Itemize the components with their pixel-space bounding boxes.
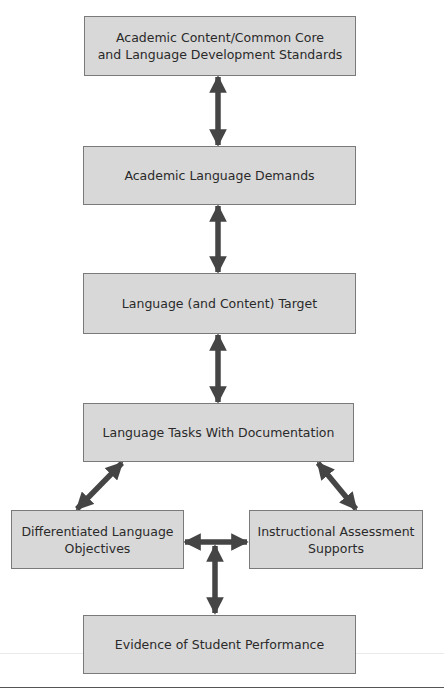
arrow-tasks-supports bbox=[318, 463, 356, 509]
node-objectives: Differentiated Language Objectives bbox=[11, 510, 184, 569]
node-demands-label: Academic Language Demands bbox=[124, 167, 314, 184]
node-evidence: Evidence of Student Performance bbox=[83, 615, 356, 674]
arrow-tasks-objectives bbox=[77, 463, 122, 509]
node-objectives-label: Differentiated Language Objectives bbox=[21, 523, 173, 557]
node-tasks: Language Tasks With Documentation bbox=[83, 403, 354, 462]
node-standards-label: Academic Content/Common Core and Languag… bbox=[98, 29, 343, 63]
node-target: Language (and Content) Target bbox=[83, 273, 356, 334]
node-tasks-label: Language Tasks With Documentation bbox=[103, 424, 335, 441]
node-evidence-label: Evidence of Student Performance bbox=[115, 636, 324, 653]
bottom-rule-divider bbox=[0, 687, 444, 688]
node-standards: Academic Content/Common Core and Languag… bbox=[84, 16, 356, 76]
node-target-label: Language (and Content) Target bbox=[122, 295, 317, 312]
connector-arrows bbox=[0, 0, 444, 694]
node-supports: Instructional Assessment Supports bbox=[249, 510, 423, 569]
node-supports-label: Instructional Assessment Supports bbox=[258, 523, 415, 557]
node-demands: Academic Language Demands bbox=[83, 146, 356, 205]
